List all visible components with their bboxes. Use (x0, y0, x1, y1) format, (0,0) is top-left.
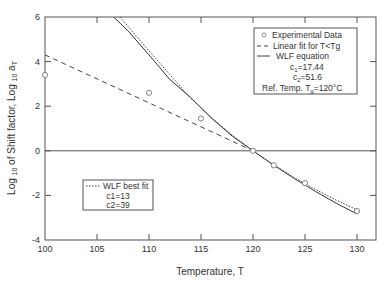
x-tick-label: 100 (37, 244, 52, 254)
experimental-data-point (271, 163, 276, 168)
legend-fit-c2: c2=39 (106, 200, 130, 210)
legend-ref-temp: Ref. Temp. Tg=120°C (262, 83, 342, 94)
y-tick-label: 6 (35, 12, 40, 22)
legend-best-fit: WLF best fit c1=13 c2=39 (83, 180, 153, 210)
shift-factor-chart: 100105110115120125130-4-20246 Temperatur… (0, 0, 390, 289)
linear-fit-for-t-tg-line (45, 55, 253, 151)
legend-entry-linear-fit: Linear fit for T<Tg (273, 41, 340, 51)
y-tick-label: 4 (35, 57, 40, 67)
legend-main: Experimental Data Linear fit for T<Tg WL… (254, 28, 357, 94)
experimental-data-point (354, 208, 359, 213)
y-tick-label: 0 (35, 146, 40, 156)
legend-entry-experimental: Experimental Data (272, 30, 342, 40)
experimental-data-point (146, 90, 151, 95)
experimental-data-point (250, 148, 255, 153)
y-axis-label: Log 10 of Shift factor, Log 10 aT (6, 60, 18, 195)
experimental-data-point (198, 116, 203, 121)
experimental-data-point (302, 181, 307, 186)
x-tick-label: 115 (194, 244, 208, 254)
experimental-data-point (42, 72, 47, 77)
x-tick-label: 125 (297, 244, 312, 254)
legend-entry-wlf: WLF equation (276, 51, 329, 61)
x-tick-label: 120 (245, 244, 260, 254)
y-tick-label: -4 (32, 235, 40, 245)
x-tick-label: 105 (89, 244, 104, 254)
x-tick-label: 130 (349, 244, 364, 254)
y-tick-label: 2 (35, 101, 40, 111)
y-tick-label: -2 (32, 190, 40, 200)
legend-entry-best-fit: WLF best fit (103, 181, 149, 191)
x-tick-label: 110 (142, 244, 156, 254)
x-axis-label: Temperature, T (176, 266, 244, 277)
